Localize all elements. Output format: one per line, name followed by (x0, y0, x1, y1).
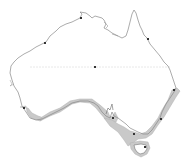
city-dot-adelaide (112, 117, 114, 119)
city-dot-sydney (160, 118, 162, 120)
city-dot-hobart (144, 146, 146, 148)
australia-map (0, 0, 187, 166)
city-dot-alice-springs (94, 66, 96, 68)
city-dot-melbourne (133, 133, 135, 135)
distribution-range (20, 88, 180, 157)
city-dot-cairns (147, 38, 149, 40)
city-dot-broome (44, 42, 46, 44)
city-dot-brisbane (173, 89, 175, 91)
city-dot-darwin (80, 17, 82, 19)
city-dot-perth (23, 107, 25, 109)
